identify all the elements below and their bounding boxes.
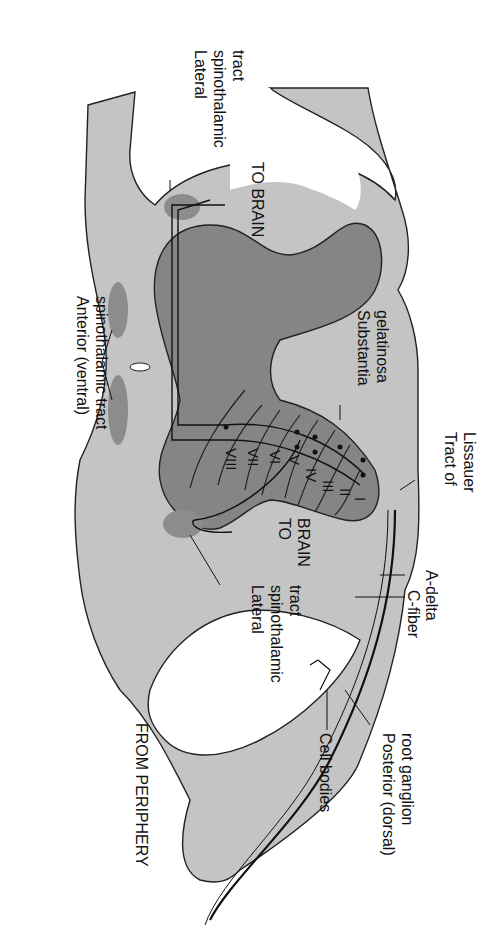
lamina-V: V [286, 455, 303, 465]
diagram-canvas: Lateralspinothalamictract TO BRAIN Anter… [0, 0, 483, 948]
lamina-VII: VII [245, 448, 262, 466]
lamina-III: III [320, 480, 337, 493]
label-cell-bodies: Cell bodies [317, 733, 334, 812]
label-lissauer: Tract ofLissauer [442, 432, 478, 493]
lateral-tract-top [164, 194, 200, 220]
label-to-brain-top: TO BRAIN [249, 162, 266, 237]
spinal-cord-diagram: Lateralspinothalamictract TO BRAIN Anter… [0, 0, 483, 948]
label-a-delta: A-delta [423, 570, 440, 621]
anterior-tract-bottom [108, 375, 128, 445]
central-canal [130, 363, 150, 371]
label-from-periphery: FROM PERIPHERY [133, 723, 150, 867]
anterior-tract-top [108, 282, 128, 338]
lamina-VI: VI [267, 450, 284, 464]
label-c-fiber: C-fiber [405, 590, 422, 639]
label-posterior-ganglion: Posterior (dorsal)root ganglion [380, 733, 416, 856]
lamina-I: I [352, 497, 369, 501]
lamina-II: II [337, 488, 354, 496]
lateral-tract-bottom [163, 510, 203, 538]
lamina-VIII: VIII [223, 448, 240, 471]
lamina-IV: IV [303, 468, 320, 482]
label-anterior-tract: Anterior (ventral)spinothalamic tract [74, 296, 110, 430]
